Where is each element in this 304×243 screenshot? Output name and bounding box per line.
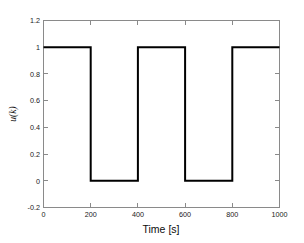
- y-tick-label: 0.2: [30, 150, 40, 159]
- y-axis-title: u(k): [8, 106, 19, 121]
- square-wave-chart: -0.2 0 0.2 0.4 0.6 0.8 1 1.2 0 200 400 6…: [0, 0, 304, 243]
- y-tick-label: 0.6: [30, 96, 40, 105]
- x-tick-label: 400: [132, 210, 144, 219]
- x-tick-label: 600: [179, 210, 191, 219]
- x-tick-label: 800: [226, 210, 238, 219]
- x-tick-label: 200: [85, 210, 97, 219]
- y-tick-label: 0: [36, 177, 40, 186]
- y-tick-label: 0.8: [30, 70, 40, 79]
- y-tick-label: -0.2: [28, 203, 40, 212]
- y-tick-label: 0.4: [30, 123, 40, 132]
- x-axis-title: Time [s]: [143, 223, 180, 235]
- y-tick-label: 1: [36, 43, 40, 52]
- x-tick-label: 1000: [272, 210, 288, 219]
- x-tick-label: 0: [42, 210, 46, 219]
- chart-background: [0, 0, 304, 243]
- figure-canvas: -0.2 0 0.2 0.4 0.6 0.8 1 1.2 0 200 400 6…: [0, 0, 304, 243]
- y-tick-label: 1.2: [30, 16, 40, 25]
